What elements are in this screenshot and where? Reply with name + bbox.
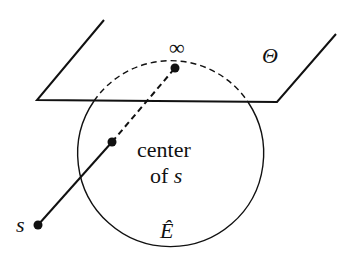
point-s-label: s bbox=[16, 212, 25, 237]
center-label-line2: of s bbox=[150, 163, 182, 188]
sphere-e-hat-label: Ê bbox=[159, 218, 174, 243]
plane-theta bbox=[37, 20, 336, 102]
point-s bbox=[34, 221, 43, 230]
infinity-label: ∞ bbox=[169, 35, 185, 60]
plane-theta-label: Θ bbox=[262, 43, 278, 68]
center-label-line1: center bbox=[137, 137, 191, 162]
point-center bbox=[108, 138, 117, 147]
stereographic-projection-diagram: ∞ Θ center of s s Ê bbox=[0, 0, 358, 260]
point-infinity bbox=[171, 64, 180, 73]
